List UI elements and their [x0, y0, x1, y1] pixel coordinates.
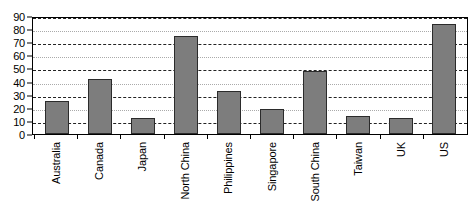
bar[interactable] — [217, 91, 241, 134]
x-axis-category-label: South China — [309, 142, 320, 201]
bar-slot — [164, 18, 207, 134]
bar[interactable] — [346, 116, 370, 134]
y-axis-tick-label: 50 — [13, 64, 25, 75]
x-axis-tick-mark — [423, 135, 424, 139]
x-axis-label-slot: Singapore — [250, 140, 293, 211]
y-axis-tick-label: 0 — [19, 130, 25, 141]
bar-slot — [35, 18, 78, 134]
y-axis-tick-label: 30 — [13, 90, 25, 101]
bar-slot — [250, 18, 293, 134]
x-axis-tick-mark — [120, 135, 121, 139]
bar[interactable] — [45, 101, 69, 134]
x-axis-label-slot: US — [423, 140, 466, 211]
bar[interactable] — [174, 36, 198, 134]
x-axis-category-label: North China — [180, 142, 191, 200]
bar[interactable] — [88, 79, 112, 134]
x-axis-tick-mark — [164, 135, 165, 139]
x-axis-tick-mark — [336, 135, 337, 139]
plot-area — [32, 17, 468, 135]
x-axis-category-label: Japan — [137, 142, 148, 171]
x-axis-category-label: Singapore — [266, 142, 277, 191]
x-axis-category-label: Philippines — [223, 142, 234, 194]
x-axis-label-slot: Taiwan — [336, 140, 379, 211]
y-axis: 0102030405060708090 — [0, 17, 32, 135]
x-axis-category-label: US — [439, 142, 450, 157]
x-axis-tick-mark — [250, 135, 251, 139]
x-axis-label-slot: UK — [380, 140, 423, 211]
bar-slot — [336, 18, 379, 134]
x-axis-category-label: UK — [396, 142, 407, 157]
bar[interactable] — [432, 24, 456, 134]
bar-slot — [207, 18, 250, 134]
bar[interactable] — [131, 118, 155, 134]
y-axis-tick-label: 90 — [13, 12, 25, 23]
bar[interactable] — [303, 71, 327, 134]
x-axis-tick-mark — [293, 135, 294, 139]
x-axis-tick-mark — [380, 135, 381, 139]
bar-slot — [293, 18, 336, 134]
x-axis-label-slot: Australia — [34, 140, 77, 211]
bars-container — [33, 18, 467, 134]
y-axis-tick-label: 60 — [13, 51, 25, 62]
bar[interactable] — [389, 118, 413, 134]
x-axis-label-slot: Philippines — [207, 140, 250, 211]
y-axis-tick-label: 80 — [13, 25, 25, 36]
bar-slot — [422, 18, 465, 134]
bar[interactable] — [260, 109, 284, 134]
x-axis-tick-mark — [34, 135, 35, 139]
x-axis-category-label: Taiwan — [353, 142, 364, 176]
x-axis-labels: AustraliaCanadaJapanNorth ChinaPhilippin… — [32, 140, 468, 211]
x-axis-label-slot: South China — [293, 140, 336, 211]
y-axis-tick-label: 40 — [13, 77, 25, 88]
bar-slot — [121, 18, 164, 134]
bar-chart: 0102030405060708090 AustraliaCanadaJapan… — [0, 0, 474, 211]
x-axis-category-label: Canada — [93, 142, 104, 180]
x-axis-label-slot: Canada — [77, 140, 120, 211]
bar-slot — [78, 18, 121, 134]
y-axis-tick-label: 10 — [13, 116, 25, 127]
x-axis-tick-mark — [77, 135, 78, 139]
x-axis-category-label: Australia — [50, 142, 61, 184]
y-axis-tick-label: 70 — [13, 38, 25, 49]
x-axis-label-slot: Japan — [120, 140, 163, 211]
bar-slot — [379, 18, 422, 134]
y-axis-tick-label: 20 — [13, 103, 25, 114]
x-axis-label-slot: North China — [164, 140, 207, 211]
x-axis-tick-mark — [207, 135, 208, 139]
